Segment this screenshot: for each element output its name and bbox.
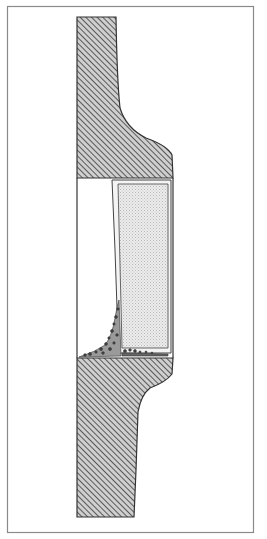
lower-hatched-section <box>77 358 173 517</box>
shaded-panel <box>118 184 168 348</box>
cross-section-diagram <box>0 0 267 539</box>
upper-hatched-section <box>77 17 173 178</box>
